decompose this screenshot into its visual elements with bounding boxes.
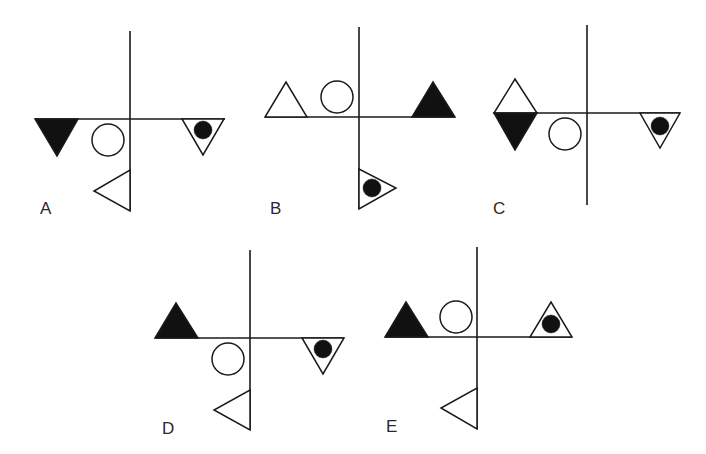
- option-figure-a[interactable]: [35, 31, 225, 211]
- hollow-circle-icon: [440, 301, 472, 333]
- black-up-triangle-icon: [385, 302, 428, 337]
- option-figure-e[interactable]: [385, 247, 572, 429]
- option-label-a[interactable]: A: [40, 200, 51, 217]
- hollow-circle-icon: [549, 118, 581, 150]
- black-dot-icon: [363, 179, 381, 197]
- option-label-b[interactable]: B: [270, 200, 281, 217]
- black-dot-icon: [542, 315, 560, 333]
- black-dot-icon: [651, 117, 669, 135]
- hollow-up-triangle-icon: [494, 79, 537, 113]
- black-dot-icon: [194, 121, 212, 139]
- option-figure-b[interactable]: [265, 27, 455, 209]
- black-dot-icon: [314, 340, 332, 358]
- hollow-up-triangle-icon: [265, 82, 307, 117]
- option-figure-c[interactable]: [494, 25, 680, 205]
- black-up-triangle-icon: [155, 303, 198, 338]
- black-up-triangle-icon: [412, 82, 455, 117]
- black-down-triangle-icon: [494, 113, 537, 150]
- black-down-triangle-icon: [35, 119, 78, 156]
- puzzle-canvas: [0, 0, 706, 454]
- option-label-d[interactable]: D: [162, 420, 174, 437]
- hollow-circle-icon: [212, 343, 244, 375]
- option-label-c[interactable]: C: [493, 200, 505, 217]
- option-figure-d[interactable]: [155, 250, 344, 430]
- left-pointing-triangle-icon: [214, 390, 250, 430]
- option-label-e[interactable]: E: [386, 418, 397, 435]
- hollow-circle-icon: [92, 124, 124, 156]
- left-pointing-triangle-icon: [94, 170, 130, 211]
- left-pointing-triangle-icon: [441, 388, 477, 429]
- hollow-circle-icon: [321, 81, 353, 113]
